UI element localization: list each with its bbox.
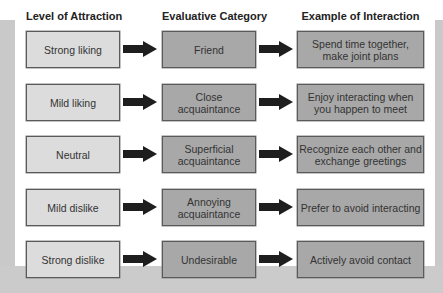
- category-box: Annoying acquaintance: [162, 189, 256, 226]
- interaction-box: Spend time together, make joint plans: [297, 31, 424, 68]
- right-arrow-icon: [259, 41, 293, 57]
- right-arrow-icon: [123, 94, 157, 110]
- level-box: Neutral: [26, 136, 120, 173]
- level-box: Strong dislike: [26, 241, 120, 278]
- interaction-box: Recognize each other and exchange greeti…: [297, 136, 424, 173]
- interaction-label: Prefer to avoid interacting: [301, 202, 421, 214]
- interaction-box: Prefer to avoid interacting: [297, 189, 424, 226]
- level-box: Mild dislike: [26, 189, 120, 226]
- category-label: Superficial acquaintance: [163, 143, 255, 167]
- interaction-box: Enjoy interacting when you happen to mee…: [297, 84, 424, 121]
- interaction-label: Actively avoid contact: [310, 254, 411, 266]
- category-label: Close acquaintance: [163, 91, 255, 115]
- right-arrow-icon: [259, 251, 293, 267]
- header-evaluative-category: Evaluative Category: [162, 10, 256, 22]
- interaction-label: Recognize each other and exchange greeti…: [298, 143, 423, 167]
- level-label: Strong dislike: [41, 254, 104, 266]
- right-arrow-icon: [123, 251, 157, 267]
- category-box: Undesirable: [162, 241, 256, 278]
- category-box: Friend: [162, 31, 256, 68]
- header-example-of-interaction: Example of Interaction: [297, 10, 424, 22]
- category-box: Close acquaintance: [162, 84, 256, 121]
- interaction-box: Actively avoid contact: [297, 241, 424, 278]
- level-box: Mild liking: [26, 84, 120, 121]
- level-label: Neutral: [56, 149, 90, 161]
- level-label: Strong liking: [44, 44, 102, 56]
- right-arrow-icon: [259, 146, 293, 162]
- right-arrow-icon: [123, 41, 157, 57]
- header-level-of-attraction: Level of Attraction: [26, 10, 120, 22]
- interaction-label: Enjoy interacting when you happen to mee…: [298, 91, 423, 115]
- right-arrow-icon: [123, 146, 157, 162]
- level-label: Mild dislike: [47, 202, 98, 214]
- category-label: Friend: [194, 44, 224, 56]
- right-arrow-icon: [259, 199, 293, 215]
- level-label: Mild liking: [50, 97, 96, 109]
- right-arrow-icon: [259, 94, 293, 110]
- category-label: Annoying acquaintance: [163, 196, 255, 220]
- category-box: Superficial acquaintance: [162, 136, 256, 173]
- level-box: Strong liking: [26, 31, 120, 68]
- right-arrow-icon: [123, 199, 157, 215]
- category-label: Undesirable: [181, 254, 237, 266]
- interaction-label: Spend time together, make joint plans: [298, 38, 423, 62]
